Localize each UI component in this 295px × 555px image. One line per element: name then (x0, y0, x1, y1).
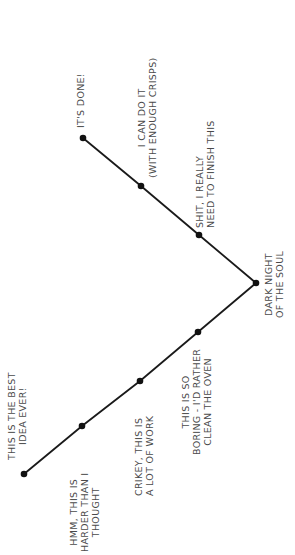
point-best-idea (21, 471, 28, 478)
hmm-line-3: THOUGHT (90, 473, 101, 552)
label-can-do: I CAN DO IT (WITH ENOUGH CRISPS) (136, 58, 158, 178)
point-dark-night (253, 280, 260, 287)
point-shit (196, 232, 203, 239)
label-done: IT'S DONE! (75, 73, 86, 128)
label-dark-night: DARK NIGHT OF THE SOUL (263, 251, 285, 318)
label-boring: THIS IS SO BORING - I'D RATHER CLEAN THE… (180, 349, 213, 455)
point-hmm (79, 423, 86, 430)
label-hmm: HMM, THIS IS HARDER THAN I THOUGHT (68, 473, 101, 552)
point-can-do (138, 183, 145, 190)
point-boring (195, 329, 202, 336)
hmm-line-2: HARDER THAN I (79, 473, 90, 552)
label-shit: SHIT, I REALLY NEED TO FINISH THIS (194, 120, 216, 228)
point-crikey (137, 378, 144, 385)
point-done (80, 135, 87, 142)
label-best-idea: THIS IS THE BEST IDEA EVER! (6, 372, 28, 460)
hmm-line-1: HMM, THIS IS (68, 473, 79, 552)
label-crikey: CRIKEY, THIS IS A LOT OF WORK (133, 416, 155, 496)
